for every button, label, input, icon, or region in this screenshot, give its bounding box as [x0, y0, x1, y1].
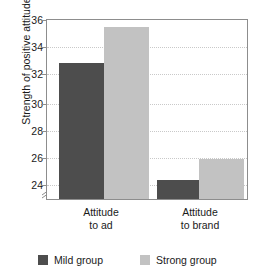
bar-mild-attitude-to-ad — [59, 63, 104, 199]
x-axis-label-attitude-to-ad: Attitude to ad — [46, 206, 156, 232]
x-axis-label-attitude-to-brand: Attitude to brand — [145, 206, 255, 232]
y-tick-label-30: 30 — [21, 99, 43, 109]
legend-item-mild-group: Mild group — [38, 252, 103, 268]
x-label-line2: to ad — [46, 219, 156, 232]
y-tick-label-28: 28 — [21, 126, 43, 136]
y-tick-label-24: 24 — [21, 180, 43, 190]
legend-swatch-mild-group — [38, 255, 48, 265]
y-tick-label-34: 34 — [21, 42, 43, 52]
bar-mild-attitude-to-brand — [157, 180, 199, 199]
legend-label-strong-group: Strong group — [156, 254, 217, 266]
x-label-line1: Attitude — [182, 206, 218, 218]
y-tick-label-36: 36 — [21, 15, 43, 25]
legend-swatch-strong-group — [140, 255, 150, 265]
x-label-line2: to brand — [145, 219, 255, 232]
bar-strong-attitude-to-brand — [199, 159, 244, 199]
x-label-line1: Attitude — [83, 206, 119, 218]
plot-area — [46, 19, 248, 200]
y-tick-label-32: 32 — [21, 69, 43, 79]
legend-label-mild-group: Mild group — [54, 254, 103, 266]
y-tick-label-26: 26 — [21, 153, 43, 163]
bar-chart-figure: Strength of positive attitude 36 34 32 3… — [0, 0, 262, 279]
legend-item-strong-group: Strong group — [140, 252, 217, 268]
bar-strong-attitude-to-ad — [104, 27, 149, 199]
chart-legend: Mild group Strong group — [0, 252, 262, 270]
